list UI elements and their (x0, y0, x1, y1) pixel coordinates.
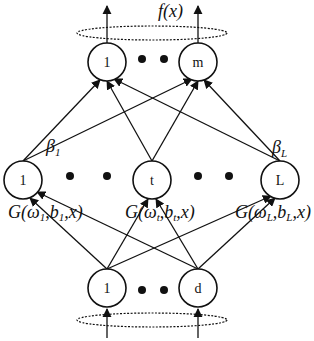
activation-label-L: G(ωL,bL,x) (235, 202, 311, 223)
ellipsis-dot (138, 286, 146, 294)
hidden-node-label: t (150, 173, 154, 188)
hidden-node-1: 1 (4, 161, 42, 199)
edge-ht-om (152, 81, 198, 161)
beta-label-1: β1 (45, 136, 60, 158)
ellipsis-dot (225, 172, 233, 180)
ellipsis-dot (103, 172, 111, 180)
output-group-ellipse (77, 26, 227, 40)
hidden-node-t: t (133, 161, 171, 199)
input-group-ellipse (77, 313, 227, 327)
hidden-node-label: 1 (20, 173, 27, 188)
edge-ht-o1 (107, 81, 152, 161)
beta-label-L: βL (271, 137, 287, 159)
output-node-label: 1 (104, 55, 111, 70)
activation-label-1: G(ω1,b1,x) (8, 202, 83, 223)
ellipsis-dot (66, 172, 74, 180)
network-diagram: f(x) 1 m 1 t L (0, 0, 314, 341)
output-function-label: f(x) (158, 1, 183, 22)
input-node-label: 1 (104, 281, 111, 296)
input-node-label: d (195, 281, 202, 296)
edge-hL-om (204, 80, 280, 161)
edge-hL-o1 (114, 79, 280, 161)
hidden-output-edges (23, 79, 280, 161)
output-node-m: m (179, 43, 217, 81)
hidden-node-L: L (261, 161, 299, 199)
output-node-1: 1 (88, 43, 126, 81)
ellipsis-dot (160, 286, 168, 294)
input-node-1: 1 (88, 269, 126, 307)
input-node-d: d (179, 269, 217, 307)
edge-h1-o1 (23, 80, 100, 161)
output-node-label: m (193, 55, 204, 70)
ellipsis-dot (138, 55, 146, 63)
activation-label-t: G(ωt,bt,x) (125, 202, 195, 223)
ellipsis-dot (160, 55, 168, 63)
ellipsis-dot (194, 172, 202, 180)
edge-id-h1 (37, 192, 198, 269)
hidden-node-label: L (276, 173, 285, 188)
